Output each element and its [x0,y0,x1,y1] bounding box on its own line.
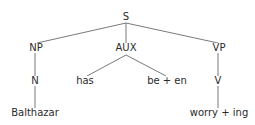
edge-aux-has [87,55,126,76]
node-worry-ing: worry + ing [189,108,249,118]
node-vp: VP [212,43,227,53]
node-v: V [214,76,223,86]
node-n: N [30,76,39,86]
edge-s-vp [126,23,218,43]
node-be-en: be + en [146,76,188,86]
edge-s-np [37,23,126,43]
node-aux: AUX [114,43,137,53]
node-s: S [122,12,130,22]
edge-aux-be-en [126,55,166,76]
syntax-tree-diagram: S NP AUX VP N has be + en V Balthazar wo… [0,0,255,125]
node-has: has [75,76,95,86]
node-balthazar: Balthazar [10,108,60,118]
node-np: NP [28,43,44,53]
